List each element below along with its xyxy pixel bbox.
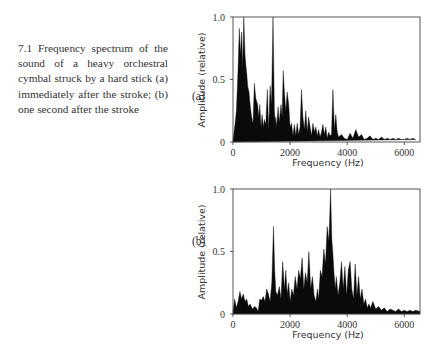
x-axis-label-b: Frequency (Hz) — [292, 329, 364, 340]
y-tick-label: 0 — [220, 137, 225, 148]
plot-frame-a — [233, 17, 420, 142]
x-axis-label-a: Frequency (Hz) — [292, 157, 364, 168]
y-tick-label: 1.0 — [213, 12, 226, 23]
y-tick-label: 0.5 — [213, 74, 226, 85]
x-tick-label: 0 — [231, 147, 236, 158]
y-tick-label: 1.0 — [213, 184, 226, 195]
y-tick-label: 0 — [220, 309, 225, 320]
chart-b: 020004000600000.51.0 Amplitude (relative… — [196, 184, 420, 341]
y-axis-label-b: Amplitude (relative) — [196, 205, 207, 300]
y-axis-label-a: Amplitude (relative) — [196, 33, 207, 128]
spectrum-b — [233, 189, 420, 314]
x-tick-label: 6000 — [394, 147, 414, 158]
y-tick-label: 0.5 — [213, 246, 226, 257]
spectrum-a — [233, 17, 416, 142]
x-tick-label: 0 — [231, 319, 236, 330]
chart-a: 020004000600000.51.0 Amplitude (relative… — [196, 12, 420, 169]
figure-canvas: 020004000600000.51.0 Amplitude (relative… — [0, 0, 442, 356]
x-tick-label: 6000 — [394, 319, 414, 330]
